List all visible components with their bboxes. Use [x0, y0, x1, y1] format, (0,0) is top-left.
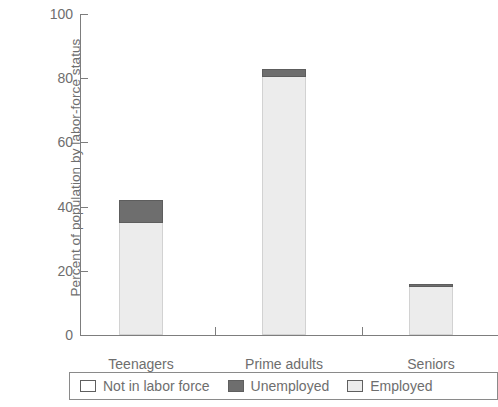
x-axis-line — [80, 335, 498, 336]
stacked-bar-chart: Percent of population by labor-force sta… — [0, 0, 498, 407]
x-axis-separator — [215, 327, 216, 336]
legend-swatch-icon — [347, 380, 363, 392]
bar-segment-unemployed — [119, 200, 163, 222]
legend-label: Employed — [370, 378, 432, 394]
x-axis-label-teenagers: Teenagers — [108, 356, 173, 372]
bar-teenagers — [119, 200, 163, 335]
legend-label: Not in labor force — [103, 378, 210, 394]
legend-label: Unemployed — [251, 378, 330, 394]
y-tick-label: 100 — [50, 6, 73, 22]
bar-prime-adults — [262, 69, 306, 335]
chart-legend: Not in labor force Unemployed Employed — [69, 372, 498, 400]
bar-segment-employed — [262, 77, 306, 335]
y-tick-label: 0 — [65, 327, 73, 343]
bar-segment-unemployed — [262, 69, 306, 77]
legend-item-not-in-labor-force: Not in labor force — [80, 378, 210, 394]
y-tick-label: 80 — [57, 70, 73, 86]
bar-segment-employed — [119, 223, 163, 335]
legend-swatch-icon — [228, 380, 244, 392]
x-axis-separator — [362, 327, 363, 336]
plot-area: 100 80 60 40 20 0 — [80, 14, 498, 336]
y-axis-line — [80, 14, 81, 336]
y-tick-label: 20 — [57, 263, 73, 279]
legend-item-employed: Employed — [347, 378, 432, 394]
y-tick-label: 40 — [57, 199, 73, 215]
bar-seniors — [409, 284, 453, 335]
bar-segment-employed — [409, 287, 453, 335]
y-tick-label: 60 — [57, 134, 73, 150]
x-axis-label-prime-adults: Prime adults — [245, 356, 323, 372]
legend-item-unemployed: Unemployed — [228, 378, 330, 394]
legend-swatch-icon — [80, 380, 96, 392]
x-axis-label-seniors: Seniors — [407, 356, 454, 372]
